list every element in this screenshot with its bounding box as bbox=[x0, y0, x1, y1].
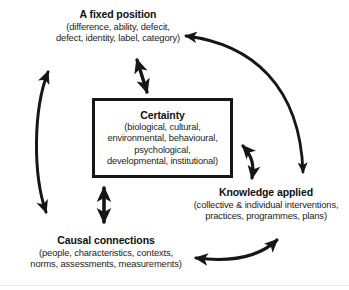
scan-artifact-line bbox=[0, 285, 349, 286]
node-a-fixed-position-title: A fixed position bbox=[18, 8, 218, 20]
connector-fixed-position-to-certainty bbox=[137, 60, 147, 92]
connector-certainty-to-knowledge-applied bbox=[243, 146, 253, 178]
node-a-fixed-position-line-1: (difference, ability, defecit, bbox=[18, 21, 218, 32]
node-certainty-title: Certainty bbox=[140, 109, 185, 121]
connector-fixed-position-to-causal-connections bbox=[36, 72, 48, 212]
node-causal-connections-line-2: norms, assessments, measurements) bbox=[8, 258, 204, 269]
node-knowledge-applied-line-1: (collective & individual interventions, bbox=[186, 199, 346, 210]
node-a-fixed-position: A fixed position (difference, ability, d… bbox=[18, 8, 218, 44]
node-certainty-line-4: developmental, institutional) bbox=[107, 156, 218, 167]
connector-knowledge-applied-to-causal-connections bbox=[196, 240, 277, 259]
node-causal-connections: Causal connections (people, characterist… bbox=[8, 234, 204, 270]
node-a-fixed-position-line-2: defect, identity, label, category) bbox=[18, 32, 218, 43]
node-knowledge-applied-title: Knowledge applied bbox=[186, 186, 346, 198]
node-certainty-line-1: (biological, cultural, bbox=[124, 122, 200, 133]
diagram-canvas: A fixed position (difference, ability, d… bbox=[0, 0, 349, 290]
node-knowledge-applied: Knowledge applied (collective & individu… bbox=[186, 186, 346, 222]
node-causal-connections-title: Causal connections bbox=[8, 234, 204, 246]
node-knowledge-applied-line-2: practices, programmes, plans) bbox=[186, 210, 346, 221]
node-certainty-box: Certainty (biological, cultural, environ… bbox=[92, 98, 233, 178]
node-certainty-line-2: environmental, behavioural, bbox=[107, 133, 217, 144]
node-causal-connections-line-1: (people, characteristics, contexts, bbox=[8, 247, 204, 258]
node-certainty-line-3: psychological, bbox=[134, 145, 190, 156]
